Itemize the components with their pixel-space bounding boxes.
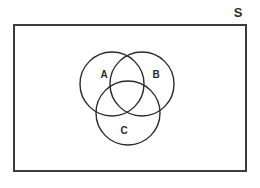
set-label-b: B [152, 69, 159, 80]
venn-diagram-figure: S A B C [0, 0, 260, 188]
set-label-a: A [100, 69, 107, 80]
universal-set-label: S [234, 5, 243, 20]
venn-diagram-canvas: S A B C [0, 0, 260, 188]
set-label-c: C [120, 125, 127, 136]
universal-set-rectangle [14, 25, 246, 171]
